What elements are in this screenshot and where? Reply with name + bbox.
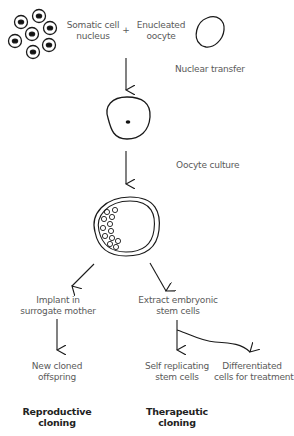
label-enucleated-oocyte: Enucleated oocyte [134, 20, 188, 42]
label-self-replicating-stem-cells: Self replicating stem cells [143, 361, 211, 383]
cloning-diagram: Somatic cell nucleus + Enucleated oocyte… [0, 0, 294, 436]
blastocyst-icon [94, 197, 159, 256]
label-oocyte-culture: Oocyte culture [176, 160, 239, 171]
arrow-to-differentiated [177, 330, 250, 352]
arrow-to-extract [150, 263, 166, 291]
arrow-to-implant [72, 264, 94, 286]
label-differentiated-cells: Differentiated cells for treatment [214, 361, 290, 383]
oocyte-oval-icon [196, 17, 224, 47]
single-nucleus-egg-icon [107, 97, 150, 139]
label-reproductive-cloning: Reproductive cloning [20, 406, 94, 428]
plus-sign: + [120, 25, 132, 36]
label-therapeutic-cloning: Therapeutic cloning [144, 406, 210, 428]
label-extract-stem-cells: Extract embryonic stem cells [137, 295, 219, 317]
label-implant-surrogate: Implant in surrogate mother [20, 295, 96, 317]
label-new-cloned-offspring: New cloned offspring [26, 361, 88, 383]
label-somatic-cell-nucleus: Somatic cell nucleus [62, 20, 124, 42]
label-nuclear-transfer: Nuclear transfer [175, 64, 245, 75]
cell-cluster-icon [9, 10, 57, 59]
